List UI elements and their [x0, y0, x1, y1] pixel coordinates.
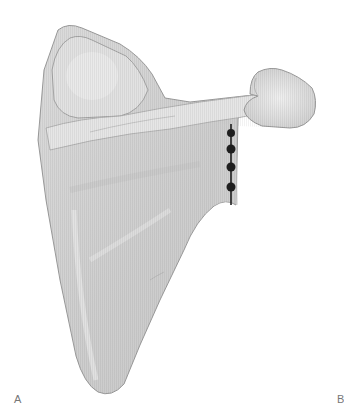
- anchor-bead: [227, 163, 236, 172]
- anchor-bead: [227, 145, 236, 154]
- anchor-bead: [227, 183, 236, 192]
- panel-label-a: A: [14, 393, 21, 405]
- scapula-figure: A B: [0, 0, 344, 412]
- scapula-illustration: [0, 0, 344, 412]
- anchor-bead: [227, 129, 235, 137]
- panel-label-b: B: [337, 393, 344, 405]
